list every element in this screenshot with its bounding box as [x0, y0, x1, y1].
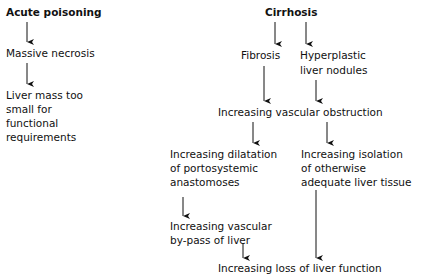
node-liver-mass-l3: functional	[6, 116, 58, 130]
node-bypass-l2: by-pass of liver	[170, 233, 250, 247]
node-acute-poisoning: Acute poisoning	[6, 5, 101, 19]
node-bypass-l1: Increasing vascular	[170, 219, 272, 233]
node-isolation-l2: of otherwise	[301, 161, 366, 175]
node-isolation-l3: adequate liver tissue	[301, 175, 411, 189]
node-vascular-obstruction: Increasing vascular obstruction	[218, 105, 383, 119]
node-dilatation-l3: anastomoses	[170, 175, 240, 189]
node-cirrhosis: Cirrhosis	[265, 5, 317, 19]
node-loss-of-function: Increasing loss of liver function	[218, 261, 382, 275]
node-liver-mass-l2: small for	[6, 102, 52, 116]
node-nodules-l2: liver nodules	[300, 63, 367, 77]
node-massive-necrosis: Massive necrosis	[6, 46, 95, 60]
node-liver-mass-l4: requirements	[6, 130, 76, 144]
node-fibrosis: Fibrosis	[241, 48, 280, 62]
node-isolation-l1: Increasing isolation	[301, 147, 403, 161]
node-nodules-l1: Hyperplastic	[300, 48, 366, 62]
node-dilatation-l1: Increasing dilatation	[170, 147, 277, 161]
node-dilatation-l2: of portosystemic	[170, 161, 258, 175]
node-liver-mass-l1: Liver mass too	[6, 88, 83, 102]
